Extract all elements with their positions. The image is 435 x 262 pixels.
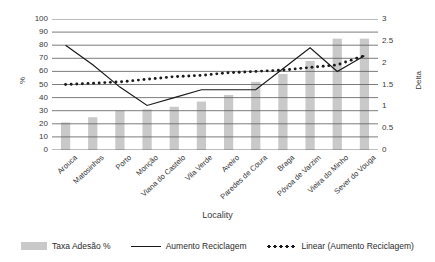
trendline-dot: [232, 71, 235, 74]
legend-label-aumento-reciclagem: Aumento Reciclagem: [166, 241, 247, 251]
y-tick-100: 100: [35, 15, 48, 23]
legend-item-linear-trend: Linear (Aumento Reciclagem): [266, 241, 413, 251]
trendline-dot: [255, 70, 258, 73]
solid-line-swatch-icon: [131, 246, 161, 247]
line-series-aumento-reciclagem: [66, 45, 365, 105]
y-tick-80: 80: [39, 41, 48, 49]
trendline-dot: [109, 81, 112, 84]
bar-4: [170, 107, 179, 150]
chart-container: % Delta 0102030405060708090100 00.511.52…: [0, 0, 435, 262]
trendline-dot: [187, 74, 190, 77]
trendline-dot: [148, 78, 151, 81]
y-tick-50: 50: [39, 81, 48, 89]
y-tick-10: 10: [39, 133, 48, 141]
trendline-dot: [288, 68, 291, 71]
bar-swatch-icon: [21, 242, 47, 250]
y-tick-40: 40: [39, 94, 48, 102]
bar-10: [333, 39, 342, 150]
bar-8: [278, 74, 287, 150]
trendline-dot: [87, 82, 90, 85]
y-tick-60: 60: [39, 67, 48, 75]
y-tick-0: 0: [44, 146, 48, 154]
bar-1: [88, 117, 97, 150]
trendline-dot: [294, 67, 297, 70]
y2-tick-1.5: 1.5: [382, 81, 393, 89]
y-tick-70: 70: [39, 54, 48, 62]
trendline-dot: [221, 72, 224, 75]
trendline-dot: [322, 65, 325, 68]
trendline-dot: [120, 80, 123, 83]
trendline-dot: [271, 69, 274, 72]
trendline-dot: [327, 64, 330, 67]
trendline-dot: [182, 75, 185, 78]
legend-item-aumento-reciclagem: Aumento Reciclagem: [131, 241, 247, 251]
trendline-dot: [92, 82, 95, 85]
secondary-y-axis-tick-labels: 00.511.522.53: [382, 0, 408, 262]
trendline-dot: [159, 76, 162, 79]
plot-area: [52, 19, 378, 150]
trendline-dot: [210, 73, 213, 76]
y2-tick-2.5: 2.5: [382, 37, 393, 45]
trendline-dot: [176, 75, 179, 78]
trendline-dot: [299, 67, 302, 70]
trendline-dot: [361, 55, 364, 58]
x-axis-title: Locality: [0, 210, 435, 220]
y2-tick-1: 1: [382, 102, 386, 110]
trendline-dot: [283, 69, 286, 72]
trendline-dot: [355, 57, 358, 60]
trendline-dot: [143, 78, 146, 81]
bar-6: [224, 95, 233, 150]
x-category-label: Aveiro: [220, 153, 242, 174]
trendline-dot: [350, 59, 353, 62]
trendline-dot: [137, 79, 140, 82]
trendline-dot: [260, 70, 263, 73]
chart-legend: Taxa Adesão % Aumento Reciclagem Linear …: [0, 236, 435, 256]
x-category-label: Vila Verde: [183, 153, 214, 183]
trendline-dot: [344, 61, 347, 64]
trendline-dot: [277, 69, 280, 72]
trendline-dot: [171, 75, 174, 78]
trendline-dot: [333, 64, 336, 67]
trendline-dot: [249, 70, 252, 73]
trendline-dot: [243, 70, 246, 73]
trendline-dot: [115, 81, 118, 84]
trendline-dot: [103, 81, 106, 84]
trendline-dot: [215, 72, 218, 75]
trendline-dot: [311, 66, 314, 69]
trendline-dot: [75, 83, 78, 86]
trendline-dot: [305, 66, 308, 69]
trendline-dot: [81, 82, 84, 85]
x-category-label: Monção: [134, 153, 160, 178]
bar-5: [197, 102, 206, 150]
y-tick-30: 30: [39, 107, 48, 115]
plot-svg: [52, 19, 378, 150]
y-axis-tick-labels: 0102030405060708090100: [20, 0, 48, 262]
bar-3: [142, 109, 151, 150]
x-category-label: Braga: [275, 153, 296, 173]
y2-tick-3: 3: [382, 15, 386, 23]
bar-2: [115, 111, 124, 150]
bar-7: [251, 82, 260, 150]
legend-label-linear-trend: Linear (Aumento Reciclagem): [301, 241, 413, 251]
y2-tick-0: 0: [382, 146, 386, 154]
trendline-dot: [131, 79, 134, 82]
legend-item-taxa-adesao: Taxa Adesão %: [21, 241, 111, 251]
trendline-dot: [70, 83, 73, 86]
trendline-dot: [64, 83, 67, 86]
bar-11: [360, 39, 369, 150]
trendline-dot: [227, 71, 230, 74]
x-axis-category-labels: AroucaMatosinhosPortoMonçãoViana do Cast…: [52, 151, 378, 209]
trendline-dot: [266, 69, 269, 72]
y-tick-90: 90: [39, 28, 48, 36]
y2-tick-2: 2: [382, 59, 386, 67]
trendline-dot: [193, 74, 196, 77]
trendline-dot: [154, 77, 157, 80]
trendline-dot: [238, 71, 241, 74]
secondary-y-axis-title: Delta: [414, 59, 423, 103]
trendline-dot: [126, 80, 129, 83]
legend-label-taxa-adesao: Taxa Adesão %: [52, 241, 111, 251]
y2-tick-0.5: 0.5: [382, 124, 393, 132]
trendline-dot: [98, 81, 101, 84]
y-tick-20: 20: [39, 120, 48, 128]
trendline-dot: [165, 76, 168, 79]
